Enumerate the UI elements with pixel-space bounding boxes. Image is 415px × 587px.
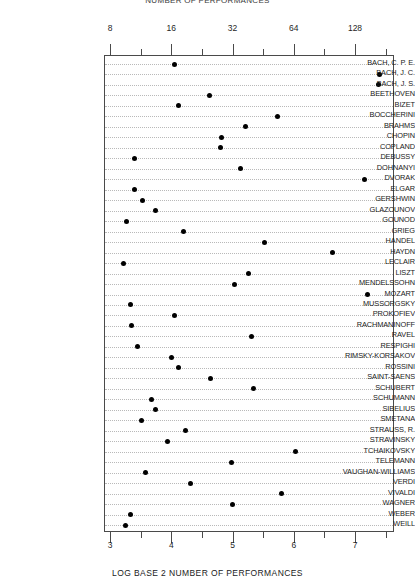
- category-label: GERSHWIN: [313, 195, 415, 203]
- axis-tick-label-top-16: 16: [156, 23, 186, 33]
- data-point[interactable]: [262, 240, 267, 245]
- axis-tick-top-6: [294, 44, 295, 55]
- axis-tick-label-top-32: 32: [218, 23, 248, 33]
- axis-tick-top-3: [110, 44, 111, 55]
- data-point[interactable]: [219, 135, 224, 140]
- data-point[interactable]: [172, 62, 177, 67]
- data-point[interactable]: [129, 323, 134, 328]
- axis-tick-bot-7_5: [386, 532, 387, 538]
- category-label: MENDELSSOHN: [313, 279, 415, 287]
- category-label: PROKOFIEV: [313, 310, 415, 318]
- x-axis-label: LOG BASE 2 NUMBER OF PERFORMANCES: [0, 568, 415, 578]
- data-point[interactable]: [183, 428, 188, 433]
- chart-top-title: NUMBER OF PERFORMANCES: [0, 0, 415, 6]
- category-label: CHOPIN: [313, 132, 415, 140]
- category-label: BACH, J. S.: [313, 80, 415, 88]
- data-point[interactable]: [165, 439, 170, 444]
- category-label: RIMSKY-KORSAKOV: [313, 352, 415, 360]
- category-label: BACH, C. P. E.: [313, 59, 415, 67]
- data-point[interactable]: [132, 187, 137, 192]
- data-point[interactable]: [124, 219, 129, 224]
- axis-tick-top-5: [233, 44, 234, 55]
- category-label: WAGNER: [313, 499, 415, 507]
- axis-tick-bot-6_5: [324, 532, 325, 538]
- axis-tick-label-bot-3: 3: [95, 540, 125, 550]
- category-label: MUSSORGSKY: [313, 300, 415, 308]
- data-point[interactable]: [143, 470, 148, 475]
- data-point[interactable]: [176, 365, 181, 370]
- axis-tick-top-7_5: [386, 49, 387, 55]
- category-label: SCHUMANN: [313, 394, 415, 402]
- category-label: SMETANA: [313, 415, 415, 423]
- category-label: BOCCHERINI: [313, 111, 415, 119]
- category-label: BEETHOVEN: [313, 90, 415, 98]
- category-label: RESPIGHI: [313, 342, 415, 350]
- data-point[interactable]: [149, 397, 154, 402]
- category-label: BRAHMS: [313, 122, 415, 130]
- data-point[interactable]: [140, 198, 145, 203]
- axis-tick-bot-3_5: [141, 532, 142, 538]
- category-label: GOUNOD: [313, 216, 415, 224]
- data-point[interactable]: [176, 103, 181, 108]
- axis-tick-label-bot-7: 7: [340, 540, 370, 550]
- category-label: VERDI: [313, 478, 415, 486]
- axis-tick-top-7: [355, 44, 356, 55]
- data-point[interactable]: [153, 208, 158, 213]
- data-point[interactable]: [128, 302, 133, 307]
- data-point[interactable]: [249, 334, 254, 339]
- data-point[interactable]: [128, 512, 133, 517]
- data-point[interactable]: [238, 166, 243, 171]
- category-label: HANDEL: [313, 237, 415, 245]
- data-point[interactable]: [169, 355, 174, 360]
- data-point[interactable]: [121, 261, 126, 266]
- data-point[interactable]: [243, 124, 248, 129]
- data-point[interactable]: [246, 271, 251, 276]
- category-label: WEBER: [313, 510, 415, 518]
- category-label: BIZET: [313, 101, 415, 109]
- data-point[interactable]: [181, 229, 186, 234]
- category-label: ELGAR: [313, 185, 415, 193]
- data-point[interactable]: [293, 449, 298, 454]
- data-point[interactable]: [279, 491, 284, 496]
- data-point[interactable]: [232, 282, 237, 287]
- data-point[interactable]: [207, 93, 212, 98]
- data-point[interactable]: [230, 502, 235, 507]
- category-label: STRAVINSKY: [313, 436, 415, 444]
- axis-tick-label-top-8: 8: [95, 23, 125, 33]
- category-label: SAINT-SAENS: [313, 373, 415, 381]
- category-label: ROSSINI: [313, 363, 415, 371]
- data-point[interactable]: [188, 481, 193, 486]
- category-label: GRIEG: [313, 227, 415, 235]
- category-label: MOZART: [313, 290, 415, 298]
- category-label: BACH, J. C.: [313, 69, 415, 77]
- category-label: LECLAIR: [313, 258, 415, 266]
- data-point[interactable]: [135, 344, 140, 349]
- axis-tick-top-3_5: [141, 49, 142, 55]
- data-point[interactable]: [208, 376, 213, 381]
- category-label: TELEMANN: [313, 457, 415, 465]
- axis-tick-bot-4_5: [202, 532, 203, 538]
- category-label: DOHNANYI: [313, 164, 415, 172]
- axis-tick-label-top-128: 128: [340, 23, 370, 33]
- axis-tick-label-bot-5: 5: [218, 540, 248, 550]
- axis-tick-top-5_5: [263, 49, 264, 55]
- axis-tick-top-4_5: [202, 49, 203, 55]
- data-point[interactable]: [229, 460, 234, 465]
- category-label: DEBUSSY: [313, 153, 415, 161]
- category-label: RACHMANINOFF: [313, 321, 415, 329]
- category-label: SCHUBERT: [313, 384, 415, 392]
- data-point[interactable]: [123, 523, 128, 528]
- data-point[interactable]: [153, 407, 158, 412]
- category-label: STRAUSS, R.: [313, 426, 415, 434]
- data-point[interactable]: [132, 156, 137, 161]
- category-label: HAYDN: [313, 248, 415, 256]
- data-point[interactable]: [251, 386, 256, 391]
- axis-tick-label-top-64: 64: [279, 23, 309, 33]
- category-label: VAUGHAN-WILLIAMS: [313, 468, 415, 476]
- category-label: LISZT: [313, 269, 415, 277]
- data-point[interactable]: [218, 145, 223, 150]
- data-point[interactable]: [172, 313, 177, 318]
- data-point[interactable]: [275, 114, 280, 119]
- data-point[interactable]: [139, 418, 144, 423]
- axis-tick-top-4: [171, 44, 172, 55]
